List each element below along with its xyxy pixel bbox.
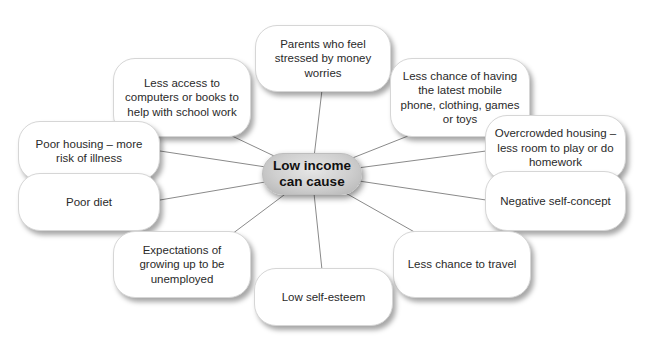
node-text: Negative self-concept bbox=[500, 194, 611, 209]
node-parents-stressed: Parents who feel stressed by money worri… bbox=[255, 25, 391, 92]
node-text: Less chance to travel bbox=[408, 257, 517, 272]
node-poor-diet: Poor diet bbox=[18, 173, 160, 231]
node-text: Parents who feel stressed by money worri… bbox=[264, 37, 382, 81]
node-text: Poor housing – more risk of illness bbox=[27, 137, 151, 166]
node-text: Low self-esteem bbox=[282, 290, 366, 305]
center-line-1: Low income bbox=[273, 158, 351, 174]
node-travel: Less chance to travel bbox=[393, 231, 531, 298]
node-text: Less access to computers or books to hel… bbox=[122, 76, 242, 120]
central-node: Low income can cause bbox=[262, 153, 362, 195]
node-text: Expectations of growing up to be unemplo… bbox=[122, 243, 242, 287]
center-line-2: can cause bbox=[273, 174, 351, 190]
node-text: Overcrowded housing – less room to play … bbox=[494, 126, 617, 170]
node-text: Poor diet bbox=[66, 195, 112, 210]
node-negative-self-concept: Negative self-concept bbox=[485, 171, 626, 231]
node-self-esteem: Low self-esteem bbox=[254, 268, 393, 326]
node-poor-housing: Poor housing – more risk of illness bbox=[18, 121, 160, 181]
mind-map: Parents who feel stressed by money worri… bbox=[0, 0, 645, 341]
node-expectations: Expectations of growing up to be unemplo… bbox=[113, 231, 251, 298]
